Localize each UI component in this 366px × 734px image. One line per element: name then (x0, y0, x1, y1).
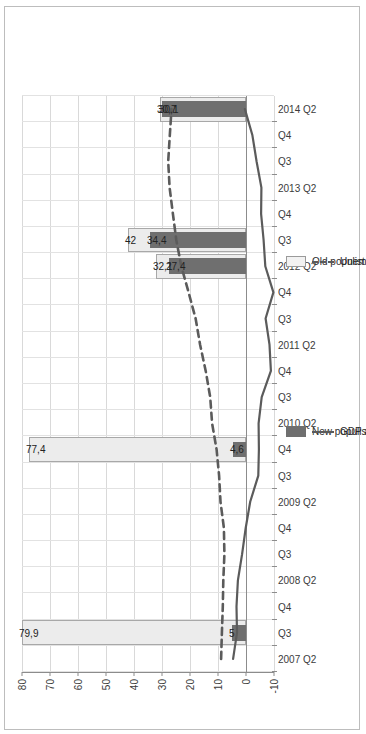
y-tick-label: 50 (101, 679, 112, 690)
x-tick-mark (272, 174, 277, 175)
unemployment-line (168, 109, 224, 659)
legend-label: Unemployment rate % (340, 256, 366, 267)
bar-value-label: 79,9 (19, 628, 38, 639)
y-tick-label: 30 (157, 679, 168, 690)
y-tick-label: 70 (45, 679, 56, 690)
bar-value-label: 4,6 (230, 444, 244, 455)
legend-swatch-icon (286, 256, 306, 267)
x-tick-mark (272, 514, 277, 515)
x-tick-mark (272, 252, 277, 253)
x-tick-label: Q4 (278, 523, 291, 534)
line-series-layer (22, 96, 274, 672)
y-tick-label: 20 (185, 679, 196, 690)
x-tick-mark (272, 409, 277, 410)
chart-stage: 80706050403020100-10 79,977,432,14230,75… (0, 0, 366, 734)
bar-value-label: 5 (229, 628, 235, 639)
y-tick-label: 10 (213, 679, 224, 690)
y-tick-label: 0 (241, 679, 252, 685)
legend-swatch-icon (286, 426, 306, 437)
chart-page: 80706050403020100-10 79,977,432,14230,75… (0, 0, 366, 734)
bar-value-label: 30,1 (159, 104, 178, 115)
x-tick-label: 2008 Q2 (278, 575, 316, 586)
gridline (274, 96, 275, 672)
x-tick-mark (272, 645, 277, 646)
y-tick-label: 40 (129, 679, 140, 690)
x-tick-mark (272, 671, 277, 672)
y-tick-mark (106, 672, 107, 676)
bar-value-label: 42 (125, 235, 136, 246)
x-tick-label: Q3 (278, 549, 291, 560)
x-tick-mark (272, 200, 277, 201)
y-tick-mark (134, 672, 135, 676)
y-tick-label: 60 (73, 679, 84, 690)
legend-gdp-growth[interactable]: GDP annual growth rate % (312, 426, 366, 437)
x-tick-label: 2007 Q2 (278, 653, 316, 664)
x-tick-mark (272, 147, 277, 148)
x-tick-mark (272, 488, 277, 489)
x-tick-label: Q3 (278, 470, 291, 481)
x-tick-mark (272, 121, 277, 122)
x-tick-mark (272, 435, 277, 436)
y-tick-mark (190, 672, 191, 676)
y-tick-mark (218, 672, 219, 676)
chart-legend: New populist vote % (SYRIZA & ANEL)GDP a… (286, 94, 350, 434)
y-tick-label: -10 (269, 679, 280, 693)
x-tick-mark (272, 226, 277, 227)
x-tick-mark (272, 278, 277, 279)
gdp-growth-line (233, 109, 273, 659)
x-tick-label: Q3 (278, 627, 291, 638)
x-tick-mark (272, 357, 277, 358)
legend-swatch-icon (312, 261, 334, 263)
y-tick-mark (78, 672, 79, 676)
y-tick-mark (246, 672, 247, 676)
x-tick-mark (272, 619, 277, 620)
x-tick-label: Q4 (278, 601, 291, 612)
x-tick-mark (272, 304, 277, 305)
y-tick-mark (22, 672, 23, 676)
y-tick-mark (50, 672, 51, 676)
x-tick-label: Q4 (278, 444, 291, 455)
y-tick-mark (162, 672, 163, 676)
x-tick-mark (272, 462, 277, 463)
x-tick-mark (272, 592, 277, 593)
y-tick-mark (274, 672, 275, 676)
x-tick-mark (272, 383, 277, 384)
bar-value-label: 34,4 (147, 235, 166, 246)
y-axis-line (22, 672, 274, 673)
plot-area: 80706050403020100-10 79,977,432,14230,75… (22, 96, 274, 672)
bar-value-label: 27,4 (166, 261, 185, 272)
x-tick-mark (272, 566, 277, 567)
y-tick-label: 80 (17, 679, 28, 690)
legend-swatch-icon (312, 431, 334, 433)
x-tick-mark (272, 540, 277, 541)
legend-label: GDP annual growth rate % (340, 426, 366, 437)
legend-unemployment[interactable]: Unemployment rate % (312, 256, 366, 267)
x-tick-mark (272, 331, 277, 332)
x-tick-label: 2009 Q2 (278, 496, 316, 507)
bar-value-label: 77,4 (26, 444, 45, 455)
